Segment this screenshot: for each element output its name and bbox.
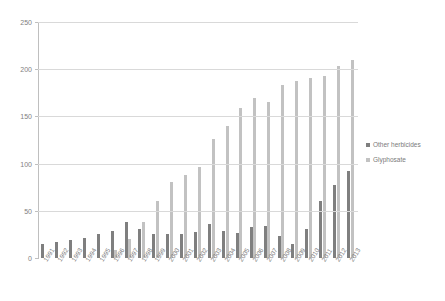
y-axis-tick-label: 150 [0,113,32,120]
bar-glyphosate[interactable] [309,78,312,258]
bar-other-herbicides[interactable] [111,231,114,258]
bar-group [97,22,111,258]
bar-glyphosate[interactable] [170,182,173,258]
bar-other-herbicides[interactable] [236,233,239,258]
bar-glyphosate[interactable] [226,126,229,258]
bar-group [222,22,236,258]
legend-label: Other herbicides [373,141,421,148]
bar-other-herbicides[interactable] [347,171,350,258]
bar-group [236,22,250,258]
bar-group [111,22,125,258]
bar-group [250,22,264,258]
gridline [38,69,358,70]
y-axis-tick-mark [35,211,38,212]
gridline [38,116,358,117]
bar-group [138,22,152,258]
herbicide-use-bar-chart: 050100150200250 199119921993199419951996… [0,0,445,301]
bar-glyphosate[interactable] [281,85,284,258]
y-axis-tick-label: 100 [0,161,32,168]
bar-glyphosate[interactable] [295,81,298,258]
bar-group [208,22,222,258]
bar-group [55,22,69,258]
legend-item-other-herbicides[interactable]: Other herbicides [366,141,444,148]
bar-other-herbicides[interactable] [125,222,128,258]
bar-group [69,22,83,258]
bar-glyphosate[interactable] [184,175,187,258]
bar-group [347,22,361,258]
legend-label: Glyphosate [373,156,406,163]
plot-area [38,22,358,258]
bar-group [152,22,166,258]
y-axis-tick-mark [35,116,38,117]
bar-glyphosate[interactable] [212,139,215,258]
bar-other-herbicides[interactable] [305,229,308,258]
bar-other-herbicides[interactable] [208,224,211,258]
x-axis-labels: 1991199219931994199519961997199819992000… [38,259,358,301]
bar-other-herbicides[interactable] [138,229,141,258]
bar-group [333,22,347,258]
bar-group [194,22,208,258]
y-axis-tick-label: 200 [0,66,32,73]
bar-group [278,22,292,258]
bar-group [319,22,333,258]
bar-glyphosate[interactable] [198,167,201,258]
chart-legend: Other herbicides Glyphosate [366,141,444,171]
bar-glyphosate[interactable] [351,60,354,258]
bar-group [291,22,305,258]
bar-other-herbicides[interactable] [264,226,267,258]
legend-swatch-icon [366,143,370,147]
bar-other-herbicides[interactable] [250,227,253,258]
bar-group [305,22,319,258]
bar-glyphosate[interactable] [253,98,256,258]
bars-layer [38,22,358,258]
bar-glyphosate[interactable] [267,102,270,258]
bar-glyphosate[interactable] [239,108,242,258]
bar-group [180,22,194,258]
bar-other-herbicides[interactable] [222,231,225,258]
bar-group [41,22,55,258]
bar-glyphosate[interactable] [323,76,326,258]
y-axis-tick-mark [35,22,38,23]
y-axis-tick-mark [35,69,38,70]
y-axis-tick-mark [35,164,38,165]
y-axis-tick-label: 50 [0,208,32,215]
y-axis-tick-label: 250 [0,19,32,26]
legend-swatch-icon [366,158,370,162]
bar-group [125,22,139,258]
chart-title [140,0,310,12]
gridline [38,22,358,23]
legend-item-glyphosate[interactable]: Glyphosate [366,156,444,163]
gridline [38,164,358,165]
y-axis-tick-label: 0 [0,255,32,262]
bar-group [264,22,278,258]
gridline [38,211,358,212]
bar-other-herbicides[interactable] [333,185,336,258]
bar-glyphosate[interactable] [337,66,340,258]
bar-group [166,22,180,258]
bar-group [83,22,97,258]
